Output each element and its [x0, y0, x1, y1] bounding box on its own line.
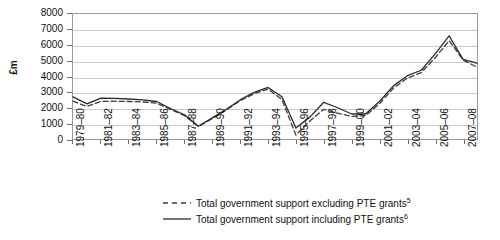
x-axis-tick-label: 1997–98 [328, 108, 338, 147]
x-axis-tick-label: 2007–08 [468, 108, 478, 147]
x-axis-tick-mark [100, 140, 101, 144]
x-axis-tick-label: 1989–90 [216, 108, 226, 147]
x-axis-tick-mark [352, 140, 353, 144]
solid-line-icon [163, 214, 191, 224]
y-axis-tick-label: 7000 [41, 24, 63, 34]
y-axis-tick-label: 3000 [41, 87, 63, 97]
x-axis-tick-mark [436, 140, 437, 144]
x-axis-tick-mark [268, 140, 269, 144]
x-axis-tick-label: 2003–04 [412, 108, 422, 147]
x-axis-tick-label: 1991–92 [244, 108, 254, 147]
legend-item-label: Total government support including PTE g… [196, 214, 408, 225]
x-axis-tick-mark [72, 140, 73, 144]
y-axis-tick-label: 6000 [41, 40, 63, 50]
x-axis-tick-mark [184, 140, 185, 144]
x-axis-tick-label: 1979–80 [76, 108, 86, 147]
y-axis-tick-label: 4000 [41, 72, 63, 82]
x-axis-tick-mark [212, 140, 213, 144]
y-axis-tick-label: 0 [57, 135, 63, 145]
x-axis-tick-label: 1983–84 [132, 108, 142, 147]
x-axis-tick-mark [324, 140, 325, 144]
y-axis-tick-label: 8000 [41, 8, 63, 18]
x-axis-tick-mark [296, 140, 297, 144]
x-axis-tick-mark [464, 140, 465, 144]
y-axis-title: £m [8, 57, 19, 79]
chart-legend: Total government support excluding PTE g… [163, 195, 493, 227]
y-axis-tick-label: 2000 [41, 103, 63, 113]
dashed-line-icon [163, 198, 191, 208]
x-axis-tick-label: 1995–96 [300, 108, 310, 147]
x-axis-tick-mark [380, 140, 381, 144]
x-axis-tick-label: 1999–00 [356, 108, 366, 147]
x-axis-tick-mark [408, 140, 409, 144]
x-axis-tick-mark [156, 140, 157, 144]
x-axis-tick-label: 1993–94 [272, 108, 282, 147]
legend-item: Total government support excluding PTE g… [163, 195, 493, 211]
x-axis-tick-label: 2001–02 [384, 108, 394, 147]
legend-item-label: Total government support excluding PTE g… [196, 198, 411, 209]
x-axis-tick-label: 1985–86 [160, 108, 170, 147]
x-axis-tick-label: 1981–82 [104, 108, 114, 147]
legend-item: Total government support including PTE g… [163, 211, 493, 227]
y-axis-tick-label: 1000 [41, 119, 63, 129]
x-axis-tick-mark [128, 140, 129, 144]
x-axis-tick-label: 2005–06 [440, 108, 450, 147]
x-axis-tick-label: 1987–88 [188, 108, 198, 147]
x-axis-tick-mark [240, 140, 241, 144]
y-axis-tick-label: 5000 [41, 56, 63, 66]
y-axis-tick-labels: 010002000300040005000600070008000 [22, 0, 67, 160]
line-chart: £m 010002000300040005000600070008000 197… [0, 0, 500, 240]
